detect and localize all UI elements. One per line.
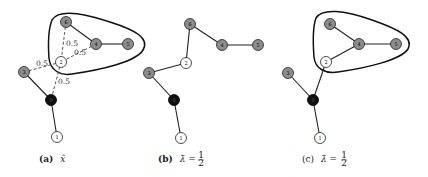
svg-text:2: 2 [59,59,62,65]
svg-text:4: 4 [357,41,360,47]
panel-a: 0.5 0.5 0.5 0.5 6 4 5 2 3 0 1 (a) x̂ [19,13,145,164]
node-4: 4 [91,39,102,50]
caption-c-frac-den: 2 [341,158,347,168]
node-3: 3 [144,68,155,79]
svg-text:1: 1 [318,135,321,141]
caption-c: (c) λ̄ = [302,154,337,164]
node-0: 0 [46,95,57,106]
svg-text:1: 1 [179,135,182,141]
node-3: 3 [283,68,294,79]
node-2: 2 [321,57,332,68]
svg-text:6: 6 [328,21,331,27]
node-5: 5 [253,40,264,51]
node-4: 4 [217,40,228,51]
svg-text:6: 6 [64,19,67,25]
svg-text:5: 5 [394,41,397,47]
node-4: 4 [354,39,365,50]
svg-text:1: 1 [55,134,58,140]
node-1: 1 [315,133,326,144]
node-5: 5 [123,39,134,50]
svg-text:4: 4 [94,41,97,47]
panel-c: 6 4 5 2 3 0 1 (c) λ̄ = 1 2 [283,11,410,168]
svg-text:6: 6 [188,21,191,27]
svg-text:0: 0 [311,97,314,103]
node-0: 0 [308,95,319,106]
weight-label: 0.5 [58,77,70,86]
svg-text:5: 5 [256,42,259,48]
weight-label: 0.5 [36,59,48,68]
node-0: 0 [169,95,180,106]
node-5: 5 [391,39,402,50]
svg-text:2: 2 [184,60,187,66]
caption-a: (a) x̂ [39,154,66,164]
weight-label: 0.5 [74,48,86,57]
node-1: 1 [52,132,63,143]
svg-text:0: 0 [49,97,52,103]
svg-text:3: 3 [22,69,25,75]
weight-label: 0.5 [66,39,78,48]
node-2: 2 [56,57,67,68]
figure-canvas: 0.5 0.5 0.5 0.5 6 4 5 2 3 0 1 (a) x̂ 6 4… [0,0,428,177]
node-6: 6 [325,19,336,30]
svg-text:3: 3 [286,70,289,76]
svg-text:3: 3 [147,70,150,76]
svg-text:4: 4 [220,42,223,48]
panel-b: 6 4 5 2 3 0 1 (b) λ̄ = 1 2 [144,19,264,169]
node-6: 6 [185,19,196,30]
node-2: 2 [181,58,192,69]
caption-b: (b) λ̄ = [158,154,196,164]
node-6: 6 [61,17,72,28]
svg-text:5: 5 [126,41,129,47]
svg-text:0: 0 [172,97,175,103]
caption-b-frac-den: 2 [198,158,204,168]
node-3: 3 [19,67,30,78]
svg-text:2: 2 [324,59,327,65]
node-1: 1 [176,133,187,144]
